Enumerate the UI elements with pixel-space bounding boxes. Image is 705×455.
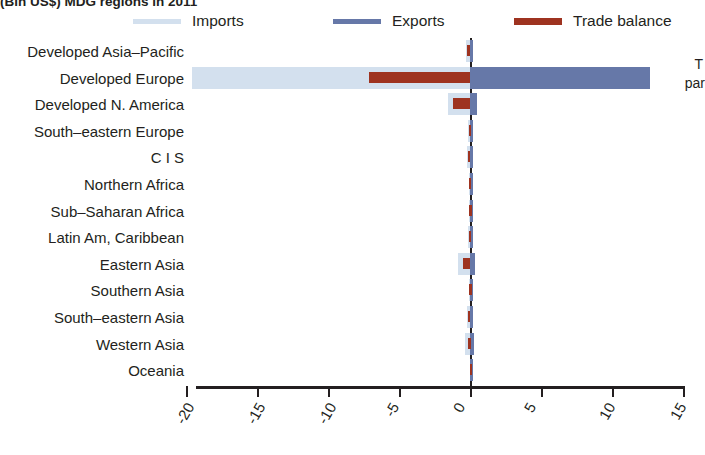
bar-row [196, 172, 683, 196]
plot-area: Developed Asia–PacificDeveloped EuropeDe… [0, 38, 705, 398]
y-axis-label: Latin Am, Caribbean [0, 230, 184, 245]
y-axis-label: Western Asia [0, 337, 184, 352]
y-axis-label: C I S [0, 150, 184, 165]
chart-legend: Imports Exports Trade balance [0, 9, 705, 33]
x-axis-tick-label: 0 [450, 400, 467, 415]
bar-trade-balance[interactable] [369, 72, 470, 83]
y-axis-label: Developed Asia–Pacific [0, 44, 184, 59]
bar-trade-balance[interactable] [463, 258, 470, 269]
legend-label-exports: Exports [392, 13, 445, 29]
bar-row [196, 39, 683, 63]
y-axis-label: Oceania [0, 363, 184, 378]
bar-row [196, 358, 683, 382]
bar-row [196, 92, 683, 116]
legend-swatch-trade-balance [514, 18, 562, 25]
x-axis-tick-label: 5 [521, 400, 538, 415]
y-axis-label: Developed Europe [0, 71, 184, 86]
bar-exports[interactable] [470, 253, 475, 275]
bar-trade-balance[interactable] [453, 98, 470, 109]
x-axis-tick [328, 386, 330, 397]
legend-label-trade-balance: Trade balance [573, 13, 672, 29]
x-axis-tick-label: -10 [315, 400, 339, 426]
bar-exports[interactable] [470, 306, 473, 328]
chart-root: (Bln US$) MDG regions in 2011 Imports Ex… [0, 0, 705, 455]
x-axis-tick [541, 386, 543, 397]
bar-trade-balance[interactable] [467, 45, 470, 56]
legend-item-trade-balance[interactable]: Trade balance [514, 9, 672, 33]
bar-exports[interactable] [470, 67, 650, 89]
x-axis: -20-15-10-5051015 [196, 386, 685, 396]
x-axis-tick [186, 386, 188, 397]
x-axis-tick-label: -5 [382, 400, 402, 419]
bar-exports[interactable] [470, 146, 473, 168]
x-axis-tick [257, 386, 259, 397]
legend-swatch-imports [133, 19, 181, 24]
bar-trade-balance[interactable] [469, 125, 472, 136]
bar-row [196, 278, 683, 302]
bar-trade-balance[interactable] [468, 151, 471, 162]
x-axis-tick [683, 386, 685, 397]
bar-trade-balance[interactable] [469, 284, 472, 295]
legend-item-exports[interactable]: Exports [333, 9, 445, 33]
x-axis-tick-label: 15 [667, 400, 688, 422]
bar-exports[interactable] [470, 40, 473, 62]
bar-row [196, 252, 683, 276]
bar-row [196, 66, 683, 90]
x-axis-tick [399, 386, 401, 397]
y-axis-label: Developed N. America [0, 97, 184, 112]
bar-row [196, 332, 683, 356]
bar-trade-balance[interactable] [469, 205, 472, 216]
bar-row [196, 119, 683, 143]
legend-item-imports[interactable]: Imports [133, 9, 244, 33]
y-axis-label: Southern Asia [0, 283, 184, 298]
bars-canvas [196, 38, 683, 386]
bar-exports[interactable] [470, 93, 477, 115]
y-axis-label: South–eastern Asia [0, 310, 184, 325]
bar-trade-balance[interactable] [468, 311, 471, 322]
y-axis-label: Eastern Asia [0, 257, 184, 272]
y-axis-label: South–eastern Europe [0, 124, 184, 139]
bar-trade-balance[interactable] [469, 178, 472, 189]
y-axis-labels: Developed Asia–PacificDeveloped EuropeDe… [0, 38, 184, 386]
bar-row [196, 305, 683, 329]
x-axis-tick-label: -20 [173, 400, 197, 426]
y-axis-label: Sub–Saharan Africa [0, 204, 184, 219]
bar-row [196, 225, 683, 249]
bar-trade-balance[interactable] [468, 338, 471, 349]
bar-trade-balance[interactable] [470, 364, 473, 375]
bar-row [196, 145, 683, 169]
x-axis-line [196, 386, 683, 389]
x-axis-tick-label: -15 [244, 400, 268, 426]
x-axis-tick-label: 10 [596, 400, 617, 422]
bar-row [196, 199, 683, 223]
legend-swatch-exports [333, 19, 381, 24]
y-axis-label: Northern Africa [0, 177, 184, 192]
legend-label-imports: Imports [192, 13, 244, 29]
x-axis-tick [612, 386, 614, 397]
bar-trade-balance[interactable] [469, 231, 472, 242]
x-axis-tick [470, 386, 472, 397]
